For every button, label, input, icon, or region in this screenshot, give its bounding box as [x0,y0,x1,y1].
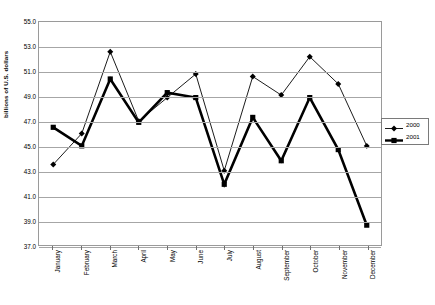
gridline [39,222,381,223]
y-axis-tick-label: 43.0 [10,168,36,175]
gridline [39,72,381,73]
gridline [39,147,381,148]
x-axis-tick-label: October [313,250,319,302]
y-axis-tick-label: 41.0 [10,193,36,200]
y-axis-tick-label: 47.0 [10,118,36,125]
y-axis-tick-label: 55.0 [10,18,36,25]
legend-label: 2000 [406,121,420,129]
data-point-2001-September [279,158,284,163]
data-point-2001-August [250,115,255,120]
gridline [39,172,381,173]
legend-label: 2001 [406,133,420,141]
x-axis-tick-label: May [170,250,176,302]
x-axis-tick-label: September [284,250,290,302]
x-axis-tick-label: April [141,250,147,302]
legend-swatch-square-icon [384,132,404,143]
x-axis-tick-label: February [84,250,90,302]
plot-area [38,21,382,246]
x-axis-tick-label: November [342,250,348,302]
gridline [39,197,381,198]
series-line-2000 [53,52,367,171]
gridline [39,47,381,48]
y-axis-tick-label: 45.0 [10,143,36,150]
x-axis-tick-labels: JanuaryFebruaryMarchAprilMayJuneJulyAugu… [38,250,382,302]
data-point-2001-July [222,182,227,187]
data-point-2001-January [51,125,56,130]
y-axis-tick-label: 37.0 [10,243,36,250]
data-point-2001-March [108,76,113,81]
y-axis-tick-label: 51.0 [10,68,36,75]
y-axis-tick-labels: 55.053.051.049.047.045.043.041.039.037.0 [8,0,36,305]
data-point-2000-March [107,49,113,55]
x-axis-tick-label: December [370,250,376,302]
x-axis-tick-label: June [198,250,204,302]
x-axis-tick-label: July [227,250,233,302]
x-axis-tick-label: August [256,250,262,302]
legend-swatch-diamond-icon [384,120,404,131]
gridline [39,97,381,98]
data-point-2000-August [250,74,256,80]
legend-item-2000: 2000 [384,120,428,131]
series-line-2001 [53,79,367,225]
x-axis-tick-label: January [55,250,61,302]
legend-item-2001: 2001 [384,132,428,143]
chart-legend: 20002001 [381,118,429,145]
y-axis-tick-label: 53.0 [10,43,36,50]
y-axis-tick-label: 39.0 [10,218,36,225]
x-axis-tick-label: March [112,250,118,302]
data-point-2001-May [165,90,170,95]
y-axis-tick-label: 49.0 [10,93,36,100]
data-point-2001-December [364,223,369,228]
series-lines [39,22,381,245]
line-chart: billions of U.S. dollars 55.053.051.049.… [0,0,435,305]
gridline [39,122,381,123]
